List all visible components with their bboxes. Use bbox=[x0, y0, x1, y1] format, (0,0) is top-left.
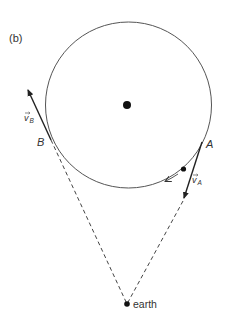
velocity-b-symbol: v bbox=[24, 113, 29, 123]
velocity-a-label: v A bbox=[192, 174, 202, 186]
sight-line-b-earth bbox=[51, 140, 127, 304]
velocity-vector-a bbox=[184, 142, 202, 198]
velocity-vector-b bbox=[28, 90, 51, 140]
velocity-a-subscript: A bbox=[197, 179, 202, 186]
velocity-b-subscript: B bbox=[30, 117, 35, 124]
earth-label: earth bbox=[133, 298, 157, 310]
orbit-direction-arrow-icon bbox=[166, 174, 178, 181]
sight-line-a-earth bbox=[127, 201, 183, 304]
velocity-b-label: v B bbox=[24, 112, 35, 124]
point-b-label: B bbox=[37, 136, 44, 148]
point-a-label: A bbox=[205, 138, 213, 150]
panel-label: (b) bbox=[9, 32, 22, 44]
center-body-dot bbox=[123, 101, 131, 109]
orbit-diagram: (b) A B earth v A v B bbox=[0, 0, 225, 325]
earth-dot bbox=[124, 301, 130, 307]
satellite-dot bbox=[181, 166, 186, 171]
velocity-a-symbol: v bbox=[192, 175, 197, 185]
